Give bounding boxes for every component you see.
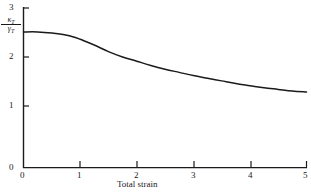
x-tick-label-5: 5 (303, 171, 308, 180)
data-series-line (24, 32, 307, 92)
x-tick-label-3: 3 (191, 171, 196, 180)
plot-area (0, 0, 311, 193)
x-axis-title: Total strain (117, 180, 158, 189)
x-tick-label-1: 1 (77, 171, 82, 180)
chart-figure: κT γT 012345 0123 Total strain (0, 0, 311, 193)
y-tick-label-1: 1 (9, 101, 14, 110)
y-tick-label-2: 2 (9, 52, 14, 61)
x-tick-label-4: 4 (248, 171, 253, 180)
y-tick-label-3: 3 (9, 3, 14, 12)
x-tick-label-0: 0 (20, 171, 25, 180)
y-tick-label-0: 0 (9, 163, 14, 172)
